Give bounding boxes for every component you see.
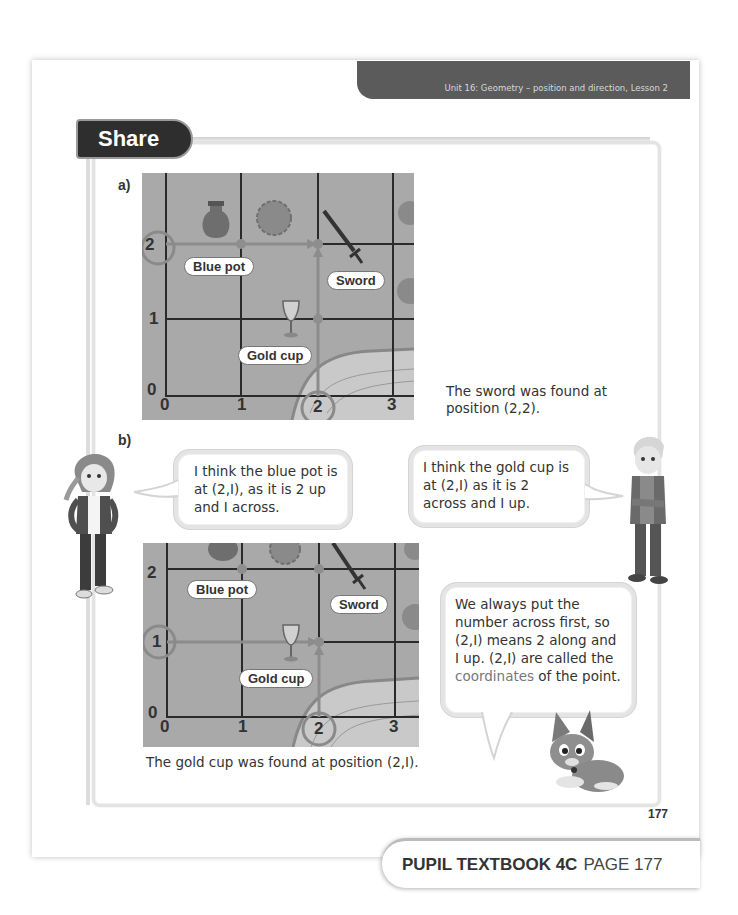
speech-bubble-dog: We always put the number across first, s… [441, 583, 636, 717]
tag-blue-pot-b: Blue pot [187, 580, 257, 599]
map-a-y-tick-1: 1 [149, 309, 158, 329]
part-a-caption: The sword was found at position (2,2). [446, 383, 646, 417]
map-b-y-tick-1: 1 [152, 632, 161, 652]
sword-icon [333, 543, 365, 589]
map-b-y-tick-0: 0 [148, 703, 157, 723]
speech-text-boy: I think the gold cup is at (2,I) as it i… [423, 459, 569, 511]
speech-bubble-boy: I think the gold cup is at (2,I) as it i… [409, 446, 589, 527]
share-header-rule [190, 137, 650, 141]
footer-book-title: PUPIL TEXTBOOK 4C [402, 855, 577, 875]
part-a-label: a) [118, 177, 130, 193]
tag-blue-pot-a: Blue pot [184, 257, 254, 276]
bubble-tail-girl [134, 478, 180, 500]
dog-character-icon [540, 708, 630, 798]
map-a-x-tick-3: 3 [387, 395, 396, 415]
section-title-text: Share [98, 126, 159, 151]
speech-text-dog-2: of the point. [534, 668, 621, 684]
page-number: 177 [648, 807, 668, 821]
map-b-x-tick-3: 3 [389, 717, 398, 737]
map-b-grid [143, 543, 419, 747]
tag-gold-cup-b: Gold cup [239, 669, 313, 688]
map-b-x-tick-0: 0 [160, 717, 169, 737]
map-b-y-tick-2: 2 [147, 563, 156, 583]
map-a-x-tick-2: 2 [313, 397, 322, 417]
map-a-y-tick-0: 0 [147, 380, 156, 400]
tag-gold-cup-a: Gold cup [238, 346, 312, 365]
unit-banner-text: Unit 16: Geometry – position and directi… [444, 83, 668, 93]
part-b-label: b) [118, 432, 131, 448]
map-a-x-tick-0: 0 [160, 395, 169, 415]
footer-page-reference: PUPIL TEXTBOOK 4C PAGE 177 [382, 838, 700, 888]
speech-text-girl: I think the blue pot is at (2,I), as it … [194, 463, 338, 515]
tag-sword-b: Sword [330, 595, 388, 614]
boy-character-icon [622, 432, 672, 587]
bubble-tail-boy [585, 482, 625, 502]
footer-page: PAGE 177 [583, 855, 662, 875]
map-a-grid [142, 173, 414, 420]
map-b-x-tick-2: 2 [314, 719, 323, 739]
speech-bubble-girl: I think the blue pot is at (2,I), as it … [174, 450, 352, 529]
bubble-tail-dog [478, 712, 518, 762]
map-a: 2 1 0 0 1 2 3 Blue pot Sword Gold cup [142, 173, 414, 420]
keyword-coordinates: coordinates [455, 668, 534, 684]
map-a-y-tick-2: 2 [145, 235, 154, 255]
map-b: 2 1 0 0 1 2 3 Blue pot Sword Gold cup [143, 543, 419, 747]
girl-character-icon [62, 448, 122, 608]
tag-sword-a: Sword [327, 271, 385, 290]
part-b-caption: The gold cup was found at position (2,I)… [146, 754, 446, 771]
section-title-share: Share [76, 119, 193, 159]
map-a-x-tick-1: 1 [237, 395, 246, 415]
speech-text-dog-1: We always put the number across first, s… [455, 596, 616, 666]
map-b-x-tick-1: 1 [238, 717, 247, 737]
pot-icon [203, 201, 230, 238]
sword-icon [324, 211, 362, 263]
unit-banner: Unit 16: Geometry – position and directi… [357, 61, 690, 99]
